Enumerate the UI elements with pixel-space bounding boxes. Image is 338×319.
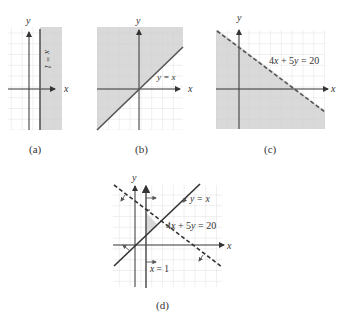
- boundary-label-a: x = 1: [43, 49, 53, 69]
- x-label-a: x: [63, 83, 69, 94]
- y-label-c: y: [236, 12, 242, 23]
- y-label-a: y: [25, 15, 31, 26]
- panel-b: x y y = x: [97, 15, 193, 130]
- label-x1-d: x = 1: [149, 264, 169, 274]
- caption-d: (d): [156, 299, 169, 311]
- x-label-d: x: [226, 240, 232, 251]
- label-4x5y-d: 4x + 5y = 20: [166, 220, 216, 231]
- x-label-c: x: [330, 83, 336, 94]
- figure-canvas: x y x = 1 x y y = x x y 4x + 5y = 20: [0, 0, 338, 319]
- boundary-label-c: 4x + 5y = 20: [269, 55, 319, 66]
- panel-c: x y 4x + 5y = 20: [216, 12, 336, 129]
- y-label-b: y: [135, 15, 141, 26]
- panel-d: x y y = x 4x + 5y = 20 x = 1: [113, 172, 232, 288]
- caption-a: (a): [29, 143, 41, 155]
- caption-b: (b): [135, 143, 148, 155]
- panel-a: x y x = 1: [8, 15, 69, 130]
- boundary-label-b: y = x: [156, 72, 176, 82]
- x-label-b: x: [187, 83, 193, 94]
- label-yx-d: y = x: [189, 194, 210, 204]
- caption-c: (c): [264, 143, 276, 155]
- y-label-d: y: [131, 172, 137, 183]
